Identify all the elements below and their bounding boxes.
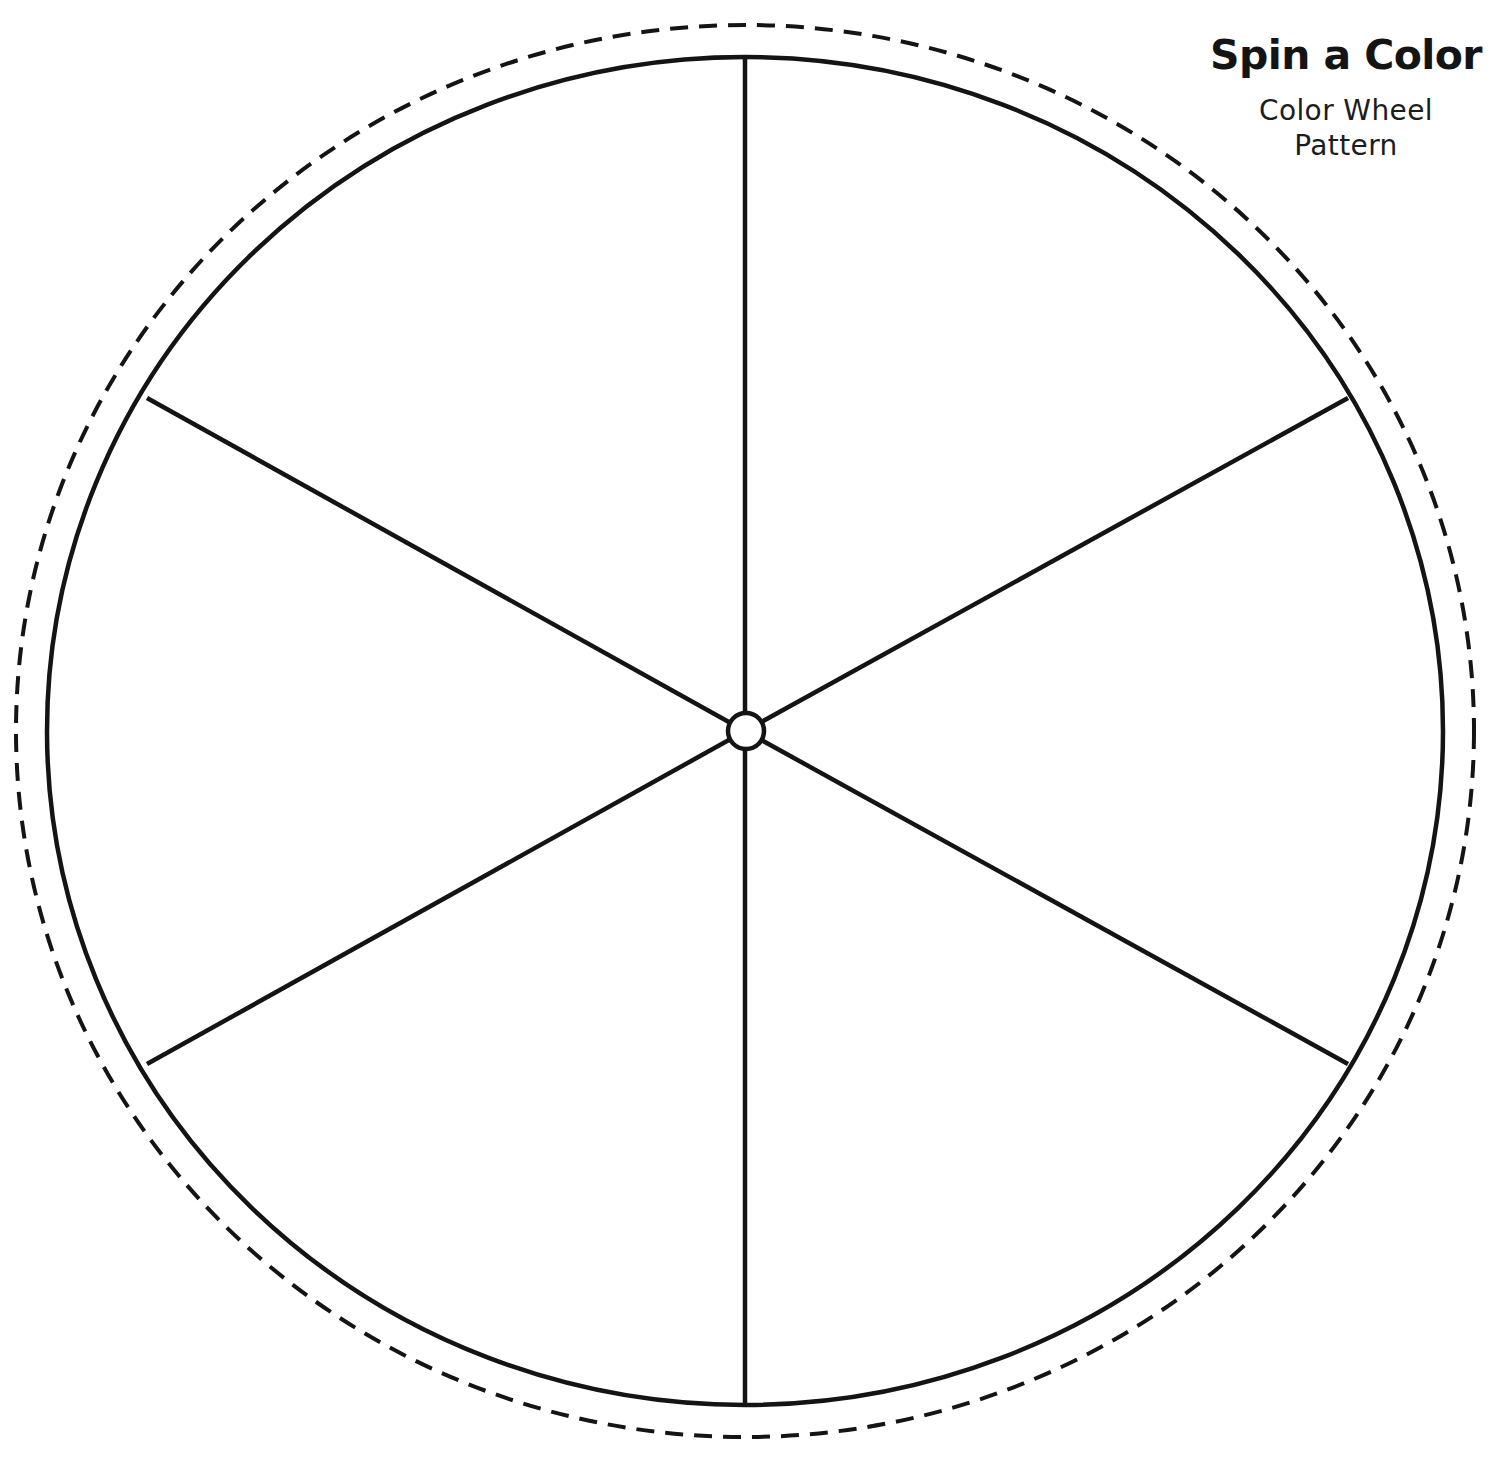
wheel-hub-circle[interactable] xyxy=(728,713,764,749)
color-wheel-diagram xyxy=(0,0,1508,1471)
worksheet-page: Spin a Color Color Wheel Pattern xyxy=(0,0,1508,1471)
